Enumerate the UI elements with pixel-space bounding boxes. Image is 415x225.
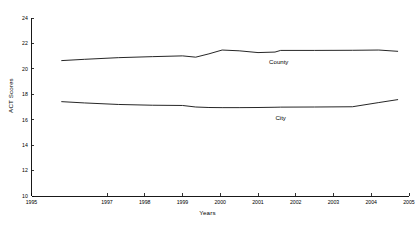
series-annotations: CountyCity: [269, 58, 289, 121]
y-tick-label: 24: [22, 15, 28, 21]
y-tick-label: 20: [22, 66, 28, 72]
x-tick-label: 2005: [403, 199, 415, 205]
x-tick-label: 2001: [252, 199, 264, 205]
data-series-group: [62, 50, 398, 108]
x-tick-label: 1998: [139, 199, 151, 205]
x-tick-label: 1995: [26, 199, 38, 205]
series-label-city: City: [275, 114, 286, 121]
chart-figure: Figure 1. Comparison of ACT Scores ACT S…: [0, 0, 415, 225]
series-label-county: County: [269, 58, 289, 65]
x-tick-label: 1997: [101, 199, 113, 205]
series-line-city: [62, 100, 398, 108]
y-tick-label: 14: [22, 142, 28, 148]
y-axis: 1012141618202224: [22, 15, 34, 199]
line-chart-plot: 1012141618202224 19951997199819992000200…: [0, 0, 415, 225]
x-axis: 1995199719981999200020012002200320042005: [26, 193, 415, 204]
x-tick-label: 2004: [365, 199, 377, 205]
y-tick-label: 12: [22, 167, 28, 173]
x-tick-label: 1999: [177, 199, 189, 205]
y-tick-label: 18: [22, 91, 28, 97]
x-tick-label: 2000: [214, 199, 226, 205]
x-tick-label: 2002: [290, 199, 302, 205]
series-line-county: [62, 50, 398, 61]
y-tick-label: 22: [22, 40, 28, 46]
x-tick-label: 2003: [328, 199, 340, 205]
y-tick-label: 16: [22, 117, 28, 123]
